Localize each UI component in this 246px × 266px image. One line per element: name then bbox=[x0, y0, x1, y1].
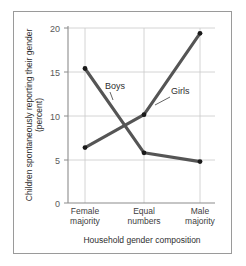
data-point-girls-2 bbox=[198, 31, 203, 36]
x-label-equal-numbers-line2: numbers bbox=[127, 216, 160, 226]
x-label-male-majority-line1: Male bbox=[191, 206, 210, 216]
y-tick-label-0: 0 bbox=[55, 199, 60, 209]
y-axis-title-line2: (percent) bbox=[34, 98, 44, 132]
x-label-female-majority-line1: Female bbox=[71, 206, 100, 216]
x-category-labels: Female majority Equal numbers Male major… bbox=[70, 206, 216, 226]
data-point-boys-2 bbox=[198, 159, 203, 164]
data-point-girls-1 bbox=[142, 112, 147, 117]
leader-line-boys bbox=[110, 92, 113, 100]
y-axis-title-line1: Children spontaneously reporting their g… bbox=[24, 29, 34, 202]
y-tick-label-5: 5 bbox=[55, 156, 60, 166]
x-axis-title: Household gender composition bbox=[83, 235, 200, 245]
y-tick-label-15: 15 bbox=[50, 68, 60, 78]
y-tick-label-20: 20 bbox=[50, 24, 60, 34]
x-label-female-majority-line2: majority bbox=[70, 216, 101, 226]
data-point-boys-0 bbox=[83, 66, 88, 71]
y-tick-marks bbox=[64, 28, 68, 203]
data-point-girls-0 bbox=[83, 145, 88, 150]
data-point-boys-1 bbox=[142, 150, 147, 155]
x-label-equal-numbers-line1: Equal bbox=[133, 206, 155, 216]
line-chart: 20 15 10 5 0 Boys Girls Female majority … bbox=[0, 0, 246, 266]
y-tick-label-10: 10 bbox=[50, 112, 60, 122]
leader-line-girls bbox=[155, 97, 170, 105]
series-label-girls: Girls bbox=[171, 86, 190, 96]
series-label-boys: Boys bbox=[105, 81, 126, 91]
x-label-male-majority-line2: majority bbox=[185, 216, 216, 226]
gridlines-horizontal bbox=[68, 28, 215, 160]
